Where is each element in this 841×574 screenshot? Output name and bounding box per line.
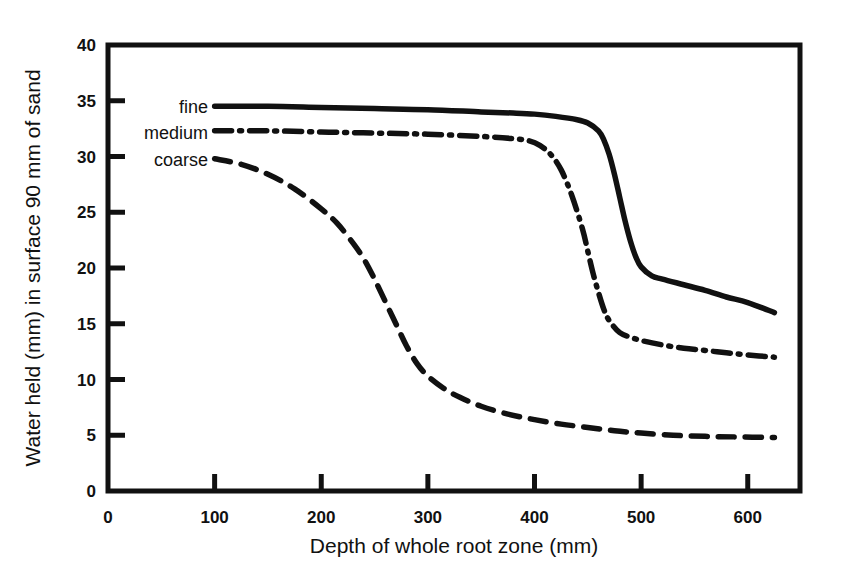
chart-legend: finemediumcoarse: [144, 97, 208, 170]
series-line-medium: [215, 131, 775, 357]
x-tick-label: 500: [627, 508, 655, 527]
y-axis: 0510152025303540: [77, 36, 125, 501]
x-tick-label: 200: [307, 508, 335, 527]
x-tick-label: 100: [200, 508, 228, 527]
x-tick-label: 0: [103, 508, 112, 527]
water-held-vs-depth-chart: 0510152025303540 0100200300400500600 fin…: [0, 0, 841, 574]
x-tick-label: 600: [734, 508, 762, 527]
y-tick-label: 40: [77, 36, 96, 55]
data-series-group: [215, 106, 775, 437]
x-axis-title: Depth of whole root zone (mm): [310, 534, 598, 557]
x-axis: 0100200300400500600: [103, 474, 762, 527]
legend-label-medium: medium: [144, 123, 208, 143]
y-tick-label: 15: [77, 315, 96, 334]
x-tick-label: 400: [520, 508, 548, 527]
y-tick-label: 10: [77, 371, 96, 390]
x-tick-label: 300: [414, 508, 442, 527]
series-line-coarse: [215, 159, 775, 438]
y-tick-label: 35: [77, 92, 96, 111]
y-tick-label: 20: [77, 259, 96, 278]
y-tick-label: 5: [87, 426, 96, 445]
legend-label-fine: fine: [179, 97, 208, 117]
y-tick-label: 30: [77, 148, 96, 167]
y-tick-label: 25: [77, 203, 96, 222]
legend-label-coarse: coarse: [154, 150, 208, 170]
y-tick-label: 0: [87, 482, 96, 501]
y-axis-title: Water held (mm) in surface 90 mm of sand: [21, 69, 44, 466]
chart-figure: 0510152025303540 0100200300400500600 fin…: [0, 0, 841, 574]
